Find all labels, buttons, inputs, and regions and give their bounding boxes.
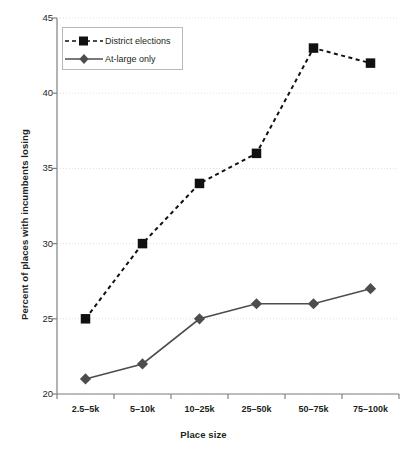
data-point-marker xyxy=(195,179,205,189)
series-line-district-elections xyxy=(86,48,371,319)
legend-item-district-elections: District elections xyxy=(63,32,184,50)
legend-label-at-large-only: At-large only xyxy=(105,54,156,64)
axis-lines xyxy=(52,18,399,399)
data-series-layer xyxy=(80,43,376,384)
series-line-at-large-only xyxy=(86,289,371,379)
data-point-marker xyxy=(365,283,376,294)
legend-swatch-solid-diamond-icon xyxy=(63,52,105,66)
data-point-marker xyxy=(80,373,91,384)
chart-container: Percent of places with incumbents losing… xyxy=(0,0,407,449)
legend-label-district-elections: District elections xyxy=(105,36,171,46)
legend-swatch-dashed-square-icon xyxy=(63,34,105,48)
data-point-marker xyxy=(252,149,262,159)
legend: District elections At-large only xyxy=(62,27,183,70)
data-point-marker xyxy=(251,298,262,309)
legend-item-at-large-only: At-large only xyxy=(63,50,184,68)
data-point-marker xyxy=(308,298,319,309)
data-point-marker xyxy=(81,314,91,324)
data-point-marker xyxy=(309,43,319,53)
data-point-marker xyxy=(366,58,376,67)
gridlines xyxy=(57,18,399,394)
data-point-marker xyxy=(138,239,148,249)
x-axis-label: Place size xyxy=(0,429,407,440)
